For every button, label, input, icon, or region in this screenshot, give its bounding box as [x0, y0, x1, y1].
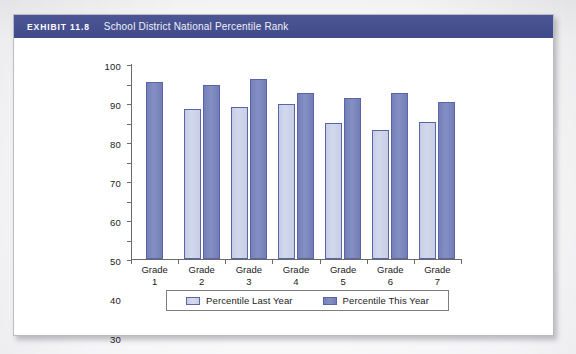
bar-last-year [184, 109, 201, 259]
bar-this-year [344, 98, 361, 259]
legend-label-last-year: Percentile Last Year [206, 295, 293, 306]
bar-last-year [419, 122, 436, 259]
bar-last-year [325, 123, 342, 260]
bar-last-year [278, 104, 295, 259]
exhibit-header: EXHIBIT 11.8 School District National Pe… [14, 15, 553, 38]
bar-this-year [297, 93, 314, 259]
x-label-line-number: 7 [407, 276, 467, 288]
y-axis-tick-label: 30 [110, 334, 121, 345]
y-axis-tick-label: 70 [110, 178, 121, 189]
y-axis-tick-label: 90 [110, 100, 121, 111]
y-axis-tick-label: 40 [110, 295, 121, 306]
bar-group [367, 64, 414, 259]
legend-item-this-year: Percentile This Year [323, 295, 429, 306]
bar-group [320, 64, 367, 259]
y-axis-tick-label: 100 [105, 61, 121, 72]
y-axis-tick-label: 80 [110, 139, 121, 150]
legend-swatch-icon-this-year [323, 297, 337, 305]
bar-this-year [203, 85, 220, 259]
exhibit-number: EXHIBIT 11.8 [27, 22, 90, 32]
bar-group [414, 64, 461, 259]
exhibit-card: EXHIBIT 11.8 School District National Pe… [13, 14, 554, 336]
bar-group [225, 64, 272, 259]
chart-legend: Percentile Last Year Percentile This Yea… [166, 290, 449, 311]
chart-area: 0102030405060708090100 Grade1Grade2Grade… [14, 38, 553, 335]
plot-region: 0102030405060708090100 Grade1Grade2Grade… [131, 64, 461, 260]
scanned-page: EXHIBIT 11.8 School District National Pe… [0, 0, 576, 354]
bar-group [131, 64, 178, 259]
y-axis-tick-label: 50 [110, 256, 121, 267]
bar-group [178, 64, 225, 259]
bar-this-year [391, 93, 408, 259]
y-axis-tick-label: 60 [110, 217, 121, 228]
bar-last-year [231, 107, 248, 259]
legend-swatch-icon-last-year [186, 297, 200, 305]
bar-group [272, 64, 319, 259]
x-label-line-grade: Grade [407, 264, 467, 276]
bar-this-year [250, 79, 267, 259]
bar-last-year [372, 130, 389, 259]
x-axis-tick-label: Grade7 [407, 264, 467, 287]
bar-this-year [438, 102, 455, 259]
x-axis-line [131, 259, 462, 260]
legend-label-this-year: Percentile This Year [343, 295, 429, 306]
legend-item-last-year: Percentile Last Year [186, 295, 293, 306]
exhibit-title: School District National Percentile Rank [104, 21, 289, 32]
bar-this-year [146, 82, 163, 259]
